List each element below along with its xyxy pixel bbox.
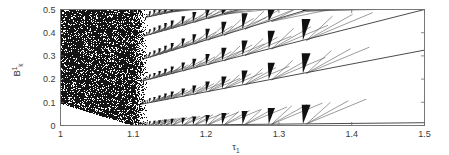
speckle-point <box>110 104 111 105</box>
speckle-point <box>109 86 110 87</box>
speckle-point <box>113 35 114 36</box>
speckle-point <box>62 72 63 73</box>
speckle-point <box>101 88 102 89</box>
speckle-point <box>145 67 146 68</box>
speckle-point <box>136 28 137 29</box>
speckle-point <box>133 13 134 14</box>
speckle-point <box>134 109 135 110</box>
speckle-point <box>72 64 73 65</box>
speckle-point <box>76 107 77 108</box>
speckle-point <box>122 64 123 65</box>
speckle-point <box>121 50 122 51</box>
speckle-point <box>121 106 122 107</box>
speckle-point <box>63 69 64 70</box>
speckle-point <box>78 22 79 23</box>
speckle-point <box>78 96 79 97</box>
speckle-point <box>66 88 67 89</box>
speckle-point <box>74 102 75 103</box>
speckle-point <box>100 104 101 105</box>
speckle-point <box>127 43 128 44</box>
speckle-point <box>67 26 68 27</box>
speckle-point <box>77 47 78 48</box>
speckle-point <box>109 32 110 33</box>
speckle-point <box>111 34 112 35</box>
speckle-point <box>113 14 114 15</box>
speckle-point <box>70 86 71 87</box>
speckle-point <box>83 91 84 92</box>
speckle-point <box>95 78 96 79</box>
speckle-point <box>62 80 63 81</box>
speckle-point <box>64 73 65 74</box>
speckle-point <box>142 92 143 93</box>
speckle-point <box>89 73 90 74</box>
speckle-point <box>66 22 67 23</box>
speckle-point <box>87 22 88 23</box>
speckle-point <box>108 104 109 105</box>
speckle-point <box>69 48 70 49</box>
speckle-point <box>98 95 99 96</box>
speckle-point <box>118 30 119 31</box>
speckle-point <box>97 55 98 56</box>
speckle-point <box>138 115 139 116</box>
speckle-point <box>124 49 125 50</box>
speckle-point <box>139 106 140 107</box>
speckle-point <box>133 46 134 47</box>
speckle-point <box>65 91 66 92</box>
speckle-point <box>78 98 79 99</box>
speckle-point <box>65 76 66 77</box>
speckle-point <box>100 66 101 67</box>
speckle-point <box>99 89 100 90</box>
speckle-point <box>69 36 70 37</box>
speckle-point <box>123 16 124 17</box>
speckle-point <box>124 114 125 115</box>
speckle-point <box>70 41 71 42</box>
speckle-point <box>98 38 99 39</box>
speckle-point <box>82 59 83 60</box>
speckle-point <box>95 106 96 107</box>
speckle-point <box>95 75 96 76</box>
speckle-point <box>61 100 62 101</box>
speckle-point <box>100 87 101 88</box>
speckle-point <box>123 17 124 18</box>
speckle-point <box>68 40 69 41</box>
speckle-point <box>84 49 85 50</box>
speckle-point <box>117 104 118 105</box>
speckle-point <box>135 40 136 41</box>
speckle-point <box>127 99 128 100</box>
speckle-point <box>75 76 76 77</box>
speckle-point <box>143 27 144 28</box>
speckle-point <box>129 65 130 66</box>
speckle-point <box>103 110 104 111</box>
speckle-point <box>72 87 73 88</box>
speckle-point <box>100 14 101 15</box>
speckle-point <box>118 84 119 85</box>
speckle-point <box>111 81 112 82</box>
speckle-point <box>102 13 103 14</box>
speckle-point <box>74 86 75 87</box>
speckle-point <box>106 115 107 116</box>
speckle-point <box>90 62 91 63</box>
speckle-point <box>123 59 124 60</box>
speckle-point <box>99 17 100 18</box>
speckle-point <box>97 24 98 25</box>
speckle-point <box>62 40 63 41</box>
speckle-point <box>138 67 139 68</box>
speckle-point <box>120 121 121 122</box>
speckle-point <box>101 50 102 51</box>
speckle-point <box>116 27 117 28</box>
speckle-point <box>134 20 135 21</box>
speckle-point <box>142 31 143 32</box>
speckle-point <box>123 51 124 52</box>
speckle-point <box>68 51 69 52</box>
speckle-point <box>101 78 102 79</box>
speckle-point <box>110 44 111 45</box>
speckle-point <box>64 84 65 85</box>
speckle-point <box>82 82 83 83</box>
speckle-point <box>123 53 124 54</box>
speckle-point <box>122 31 123 32</box>
speckle-point <box>61 52 62 53</box>
speckle-point <box>104 16 105 17</box>
speckle-point <box>73 79 74 80</box>
speckle-point <box>62 25 63 26</box>
speckle-point <box>112 91 113 92</box>
